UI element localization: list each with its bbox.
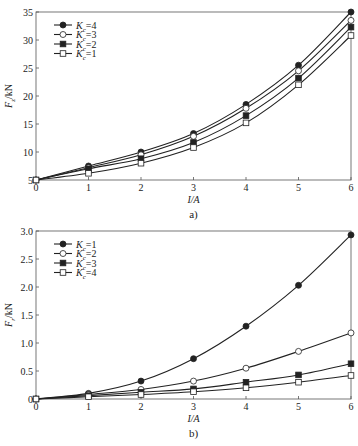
x-tick-label: 4 (244, 182, 249, 193)
data-point-marker (138, 160, 144, 166)
y-tick-label: 30 (23, 35, 33, 46)
y-tick-label: 1.5 (21, 310, 34, 321)
legend-marker (60, 241, 66, 247)
data-point-marker (348, 361, 354, 367)
data-point-marker (33, 396, 39, 402)
y-tick-label: 15 (23, 119, 33, 130)
legend-marker (60, 22, 66, 28)
data-point-marker (296, 68, 302, 74)
data-point-marker (243, 120, 249, 126)
data-point-marker (296, 348, 302, 354)
data-point-marker (348, 24, 354, 30)
figure: 51015202530350123456I/Aa)Fz/kNKc=4Kc=3Kc… (0, 0, 358, 446)
legend-marker (60, 32, 66, 38)
data-point-marker (86, 170, 92, 176)
data-point-marker (191, 145, 197, 151)
y-tick-label: 25 (23, 63, 33, 74)
legend-marker (60, 51, 66, 57)
data-point-marker (348, 330, 354, 336)
legend-label: Kc=4 (75, 267, 96, 281)
data-point-marker (348, 17, 354, 23)
chart-caption: b) (189, 427, 199, 440)
data-point-marker (191, 356, 197, 362)
x-tick-label: 1 (86, 182, 91, 193)
data-point-marker (138, 392, 144, 398)
y-tick-label: 10 (23, 147, 33, 158)
x-tick-label: 0 (34, 401, 39, 412)
data-point-marker (348, 373, 354, 379)
x-tick-label: 6 (349, 182, 354, 193)
data-point-marker (243, 113, 249, 119)
data-point-marker (296, 372, 302, 378)
x-tick-label: 2 (139, 401, 144, 412)
y-tick-label: 35 (23, 7, 33, 18)
x-tick-label: 4 (244, 401, 249, 412)
data-point-marker (296, 379, 302, 385)
legend-marker (60, 251, 66, 257)
data-point-marker (191, 389, 197, 395)
data-point-marker (348, 9, 354, 15)
legend-item: Kc=4 (54, 267, 96, 281)
x-tick-label: 1 (86, 401, 91, 412)
data-point-marker (243, 385, 249, 391)
legend: Kc=1Kc=2Kc=3Kc=4 (54, 239, 96, 282)
y-tick-label: 5 (28, 175, 33, 186)
x-tick-label: 5 (296, 182, 301, 193)
data-point-marker (243, 365, 249, 371)
y-axis-label: Fr/kN (3, 303, 17, 328)
data-point-marker (243, 323, 249, 329)
data-point-marker (348, 33, 354, 39)
x-tick-label: 5 (296, 401, 301, 412)
data-point-marker (138, 378, 144, 384)
y-tick-label: 1.0 (21, 338, 34, 349)
data-point-marker (86, 394, 92, 400)
y-tick-label: 0.5 (21, 366, 34, 377)
data-point-marker (243, 379, 249, 385)
y-axis-label: Fz/kN (3, 84, 17, 109)
data-point-marker (33, 177, 39, 183)
data-point-marker (191, 378, 197, 384)
x-tick-label: 3 (191, 401, 196, 412)
data-point-marker (296, 62, 302, 68)
y-tick-label: 20 (23, 91, 33, 102)
y-tick-label: 2.5 (21, 254, 34, 265)
legend-item: Kc=1 (54, 48, 96, 62)
y-tick-label: 3.0 (21, 226, 34, 237)
legend-marker (60, 260, 66, 266)
data-point-marker (243, 105, 249, 111)
chart-a: 51015202530350123456I/Aa)Fz/kNKc=4Kc=3Kc… (3, 7, 354, 222)
x-axis-label: I/A (186, 194, 200, 205)
data-point-marker (348, 232, 354, 238)
data-point-marker (296, 282, 302, 288)
legend-marker (60, 41, 66, 47)
y-tick-label: 2.0 (21, 282, 34, 293)
x-axis-label: I/A (186, 413, 200, 424)
chart-caption: a) (189, 208, 198, 221)
x-tick-label: 0 (34, 182, 39, 193)
data-point-marker (296, 82, 302, 88)
data-point-marker (296, 75, 302, 81)
x-tick-label: 3 (191, 182, 196, 193)
legend-label: Kc=1 (75, 48, 96, 62)
x-tick-label: 6 (349, 401, 354, 412)
data-point-marker (191, 133, 197, 139)
legend: Kc=4Kc=3Kc=2Kc=1 (54, 20, 96, 63)
y-tick-label: 0 (28, 394, 33, 405)
legend-marker (60, 270, 66, 276)
chart-b: 00.51.01.52.02.53.00123456I/Ab)Fr/kNKc=1… (3, 226, 354, 441)
x-tick-label: 2 (139, 182, 144, 193)
